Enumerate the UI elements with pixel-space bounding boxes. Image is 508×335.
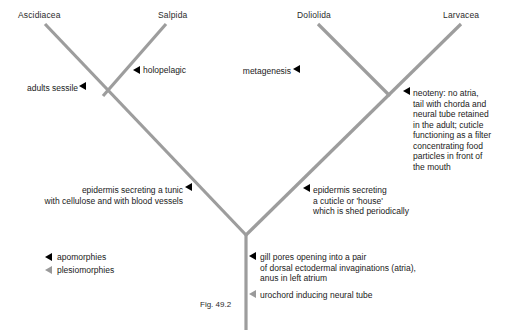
apomorphy-marker-adults-sessile (79, 82, 86, 90)
annotation-gill-pores: gill pores opening into a pair of dorsal… (260, 252, 416, 284)
annotation-metagenesis: metagenesis (229, 66, 291, 77)
legend-apomorphies-icon (45, 253, 52, 261)
annotation-epidermis-tunic: epidermis secreting a tunic with cellulo… (8, 185, 183, 206)
apomorphy-marker-holopelagic (133, 66, 140, 74)
apomorphy-marker-neoteny (403, 87, 410, 95)
branch-doliolida (318, 24, 390, 96)
annotation-adults-sessile: adults sessile (12, 83, 78, 94)
figure-caption: Fig. 49.2 (200, 300, 231, 309)
taxon-label-larvacea: Larvacea (443, 10, 479, 20)
annotation-urochord: urochord inducing neural tube (260, 290, 372, 301)
legend-plesiomorphies-icon (45, 266, 52, 274)
apomorphy-marker-epidermis-tunic (185, 183, 192, 191)
taxon-label-salpida: Salpida (158, 10, 187, 20)
cladogram-figure: Ascidiacea Salpida Doliolida Larvacea ad… (0, 0, 508, 335)
taxon-label-ascidiacea: Ascidiacea (18, 10, 61, 20)
apomorphy-marker-epidermis-cuticle (303, 184, 310, 192)
legend-plesiomorphies-label: plesiomorphies (57, 265, 114, 276)
annotation-epidermis-cuticle: epidermis secreting a cuticle or 'house'… (313, 185, 409, 217)
annotation-holopelagic: holopelagic (143, 65, 186, 76)
apomorphy-marker-gill-pores (249, 252, 256, 260)
plesiomorphy-marker-urochord (249, 290, 256, 298)
annotation-neoteny: neoteny: no atria, tail with chorda and … (413, 88, 505, 172)
taxon-label-doliolida: Doliolida (297, 10, 331, 20)
apomorphy-marker-metagenesis (293, 65, 300, 73)
legend-apomorphies-label: apomorphies (57, 252, 106, 263)
branch-salpida (103, 24, 166, 96)
